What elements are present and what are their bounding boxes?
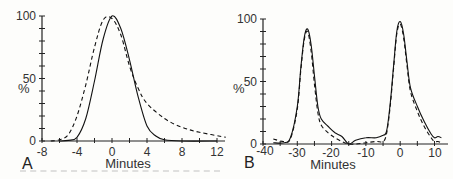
panel-a-xlabel: Minutes	[105, 156, 151, 171]
panel-b-axes	[260, 19, 448, 146]
panel-b-ylabel: %	[233, 81, 245, 96]
panel-a-axes	[39, 16, 225, 143]
panel-b-xtick: 0	[397, 146, 404, 160]
panel-a-ylabel: %	[18, 81, 30, 96]
panel-b-xlabel: Minutes	[310, 157, 356, 172]
panel-a-ytick-100: 100	[16, 9, 36, 23]
panel-a-xtick: -8	[37, 145, 48, 159]
panel-a: 100 50 0 % -8 -4 0 4 8 12 Minutes A	[16, 9, 226, 172]
panel-b-xtick: -10	[357, 146, 375, 160]
panel-a-xtick: 8	[179, 145, 186, 159]
panel-a-solid-curve	[60, 16, 218, 141]
panel-a-dashed-curve	[51, 16, 226, 141]
figure: 100 50 0 % -8 -4 0 4 8 12 Minutes A 100 …	[0, 0, 453, 179]
panel-b-xtick: -40	[256, 144, 274, 158]
panel-a-ytick-0: 0	[29, 134, 36, 148]
panel-b-xtick: 10	[428, 146, 442, 160]
panel-b-ytick-50: 50	[244, 75, 258, 89]
panel-a-xtick: -4	[72, 145, 83, 159]
panel-b-xtick: -30	[288, 146, 306, 160]
caption-fragment	[20, 170, 220, 175]
panel-b-letter: B	[244, 154, 255, 171]
panel-b-dashed-curve	[273, 24, 441, 144]
panel-b-solid-curve	[273, 21, 441, 144]
panel-a-xtick: 12	[210, 145, 224, 159]
panel-b: 100 50 0 % -40 -30 -20 -10 0 10 Minutes …	[233, 12, 448, 172]
panel-b-ytick-100: 100	[237, 12, 257, 26]
